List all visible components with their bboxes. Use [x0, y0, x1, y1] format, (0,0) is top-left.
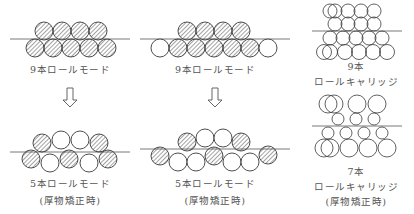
down-arrow-icon	[208, 88, 222, 107]
label-nine-roll-mode-b: 9本ロールモード	[165, 64, 265, 76]
panel-five-roll-mode-b	[140, 129, 290, 171]
sublabel-seven-roll-carriage: (厚物矯正時)	[306, 196, 406, 208]
label-nine-roll-carriage-count: 9本	[306, 61, 406, 73]
label-nine-roll-carriage: ロールキャリッジ	[306, 76, 406, 88]
label-seven-roll-carriage: ロールキャリッジ	[306, 181, 406, 193]
label-nine-roll-mode-a: 9本ロールモード	[20, 64, 120, 76]
panel-nine-roll-mode-a	[10, 22, 130, 57]
label-five-roll-mode-a: 5本ロールモード	[20, 178, 120, 190]
sublabel-five-roll-mode-b: (厚物矯正時)	[165, 195, 265, 207]
panel-five-roll-mode-a	[10, 131, 130, 172]
sublabel-five-roll-mode-a: (厚物矯正時)	[20, 195, 120, 207]
panel-nine-roll-mode-b	[140, 22, 290, 57]
panel-seven-roll-carriage	[312, 95, 402, 157]
label-five-roll-mode-b: 5本ロールモード	[165, 178, 265, 190]
down-arrow-icon	[63, 88, 77, 107]
panel-nine-roll-carriage	[312, 4, 402, 60]
label-seven-roll-carriage-count: 7本	[306, 166, 406, 178]
